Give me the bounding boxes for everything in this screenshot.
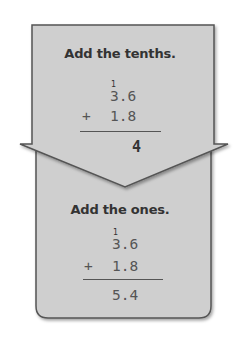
step1-title: Add the tenths. bbox=[0, 46, 240, 61]
step2-sum-line bbox=[83, 279, 163, 280]
step1-result: 4 bbox=[132, 138, 141, 156]
step2-plus-sign: + bbox=[84, 258, 93, 274]
step2-title: Add the ones. bbox=[0, 202, 240, 217]
step1-addend-1: 3.6 bbox=[110, 88, 136, 104]
step2-addend-1: 3.6 bbox=[112, 236, 138, 252]
step2-addend-2: 1.8 bbox=[112, 258, 138, 274]
step1-sum-line bbox=[80, 131, 161, 132]
step1-addend-2: 1.8 bbox=[110, 108, 136, 124]
step2-result: 5.4 bbox=[112, 287, 138, 303]
step1-plus-sign: + bbox=[82, 108, 91, 124]
